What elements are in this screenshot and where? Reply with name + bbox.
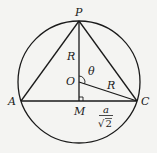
label-radius-PO: R xyxy=(66,50,75,63)
label-point-O: O xyxy=(66,75,75,88)
label-point-A: A xyxy=(7,95,16,108)
label-point-C: C xyxy=(141,95,150,108)
label-point-M: M xyxy=(73,105,86,118)
label-radius-OC: R xyxy=(106,79,115,92)
label-fraction-denominator: 2 xyxy=(106,118,112,129)
label-fraction-numerator: a xyxy=(103,104,109,115)
sqrt-icon: √ xyxy=(98,118,105,129)
diagram-canvas: P A C M O R R θ a √ 2 xyxy=(0,0,157,153)
label-angle-theta: θ xyxy=(88,65,95,78)
label-point-P: P xyxy=(74,6,83,19)
geometry-diagram: P A C M O R R θ a √ 2 xyxy=(0,0,157,153)
